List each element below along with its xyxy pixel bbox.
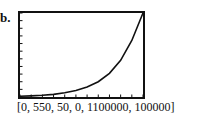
problem-label: b.	[0, 10, 10, 26]
window-settings-caption: [0, 550, 50, 0, 1100000, 100000]	[17, 100, 175, 115]
calculator-graph	[18, 11, 145, 99]
